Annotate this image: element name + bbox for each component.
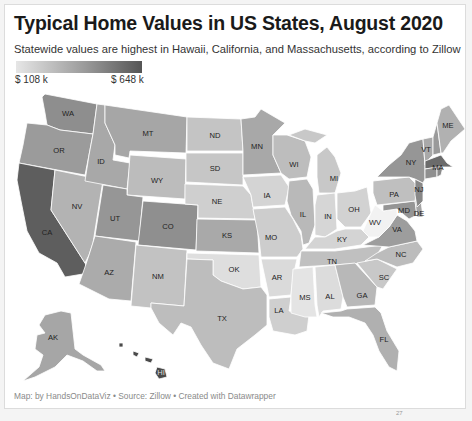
label-MO: MO: [265, 233, 277, 242]
us-choropleth-map: WA OR CA NV ID MT WY UT CO AZ NM ND SD N…: [5, 85, 467, 385]
label-TN: TN: [327, 257, 337, 266]
label-ID: ID: [97, 157, 105, 166]
label-MD: MD: [398, 206, 410, 215]
label-CA: CA: [42, 228, 53, 237]
label-DE: DE: [414, 209, 425, 218]
chart-title: Typical Home Values in US States, August…: [14, 12, 443, 35]
label-AZ: AZ: [104, 268, 114, 277]
label-MN: MN: [251, 142, 263, 151]
label-IL: IL: [300, 210, 306, 219]
label-IA: IA: [263, 191, 271, 200]
label-OK: OK: [229, 265, 240, 274]
label-NC: NC: [396, 250, 407, 259]
color-legend-bar: [16, 61, 142, 73]
label-ME: ME: [442, 121, 453, 130]
label-NV: NV: [72, 202, 83, 211]
label-NM: NM: [152, 272, 164, 281]
label-PA: PA: [389, 190, 400, 199]
label-WV: WV: [369, 218, 382, 227]
label-SD: SD: [210, 164, 221, 173]
chart-subtitle: Statewide values are highest in Hawaii, …: [14, 43, 460, 55]
label-IN: IN: [324, 212, 332, 221]
state-MS[interactable]: [291, 267, 317, 317]
label-WA: WA: [62, 109, 75, 118]
label-MT: MT: [143, 129, 154, 138]
label-MS: MS: [299, 293, 310, 302]
label-KS: KS: [222, 231, 232, 240]
page-marker: 27: [396, 410, 403, 416]
label-VA: VA: [392, 225, 403, 234]
legend-min-label: $ 108 k: [15, 74, 48, 85]
label-NJ: NJ: [414, 185, 423, 194]
label-ND: ND: [210, 131, 221, 140]
label-LA: LA: [274, 306, 284, 315]
chart-card: Typical Home Values in US States, August…: [4, 4, 466, 409]
label-KY: KY: [337, 235, 347, 244]
label-TX: TX: [217, 314, 227, 323]
label-WY: WY: [151, 176, 163, 185]
label-CO: CO: [162, 222, 173, 231]
state-NY[interactable]: [377, 139, 425, 183]
label-AL: AL: [325, 292, 334, 301]
label-NY: NY: [406, 158, 417, 167]
label-WI: WI: [289, 160, 298, 169]
label-FL: FL: [380, 335, 389, 344]
source-credit: Map: by HandsOnDataViz • Source: Zillow …: [14, 391, 276, 401]
label-MI: MI: [330, 174, 338, 183]
label-HI: HI: [157, 368, 165, 377]
label-UT: UT: [110, 214, 120, 223]
label-SC: SC: [379, 273, 390, 282]
label-OH: OH: [348, 205, 359, 214]
state-AK[interactable]: [23, 311, 105, 381]
label-AR: AR: [272, 273, 283, 282]
label-NE: NE: [212, 197, 223, 206]
label-OR: OR: [53, 146, 65, 155]
label-VT: VT: [421, 145, 431, 154]
label-MA: MA: [432, 163, 444, 172]
label-AK: AK: [48, 333, 58, 342]
label-GA: GA: [357, 291, 369, 300]
legend-max-label: $ 648 k: [111, 74, 144, 85]
